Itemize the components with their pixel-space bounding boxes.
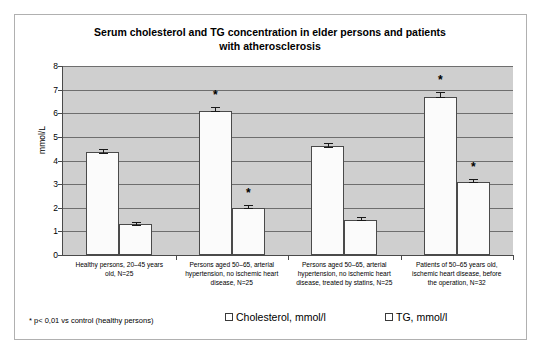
- y-axis-tick-label: 5: [42, 132, 58, 142]
- x-axis-category-label: Persons aged 50–65, arterialhypertension…: [288, 260, 401, 287]
- x-axis-label-line: ischemic heart disease, before: [401, 269, 514, 278]
- chart-legend: Cholesterol, mmol/lTG, mmol/l: [225, 311, 515, 331]
- x-axis-label-line: hypertension, no ischemic heart: [288, 269, 401, 278]
- x-axis-tick-mark: [288, 255, 289, 260]
- error-bar-cap-bottom: [132, 225, 141, 226]
- bar[interactable]: [344, 220, 377, 255]
- x-axis-label-line: Persons aged 50–65, arterial: [176, 260, 289, 269]
- error-bar-cap-bottom: [469, 182, 478, 183]
- bar[interactable]: [311, 146, 344, 255]
- x-axis-label-line: old, N=25: [63, 269, 176, 278]
- significance-marker: *: [242, 188, 254, 198]
- x-axis-tick-mark: [401, 255, 402, 260]
- footnote: * p< 0,01 vs control (healthy persons): [29, 316, 153, 325]
- y-axis-tick-label: 7: [42, 85, 58, 95]
- bar-group: [288, 66, 401, 255]
- x-axis-tick-mark: [176, 255, 177, 260]
- error-bar-cap-bottom: [244, 208, 253, 209]
- error-bar-cap-bottom: [436, 97, 445, 98]
- bar-group: **: [401, 66, 514, 255]
- x-axis-label-line: disease, treated by statins, N=25: [288, 278, 401, 287]
- significance-marker: *: [209, 90, 221, 100]
- bar-group: [63, 66, 176, 255]
- x-axis-tick-mark: [513, 255, 514, 260]
- x-axis-label-line: hypertension, no ischemic heart: [176, 269, 289, 278]
- significance-marker: *: [434, 75, 446, 85]
- bar[interactable]: [199, 111, 232, 255]
- legend-swatch-icon: [385, 313, 393, 321]
- legend-item[interactable]: Cholesterol, mmol/l: [225, 311, 326, 323]
- y-axis-tick-label: 4: [42, 156, 58, 166]
- chart-title-line-2: with atherosclerosis: [45, 39, 495, 53]
- legend-item[interactable]: TG, mmol/l: [385, 311, 447, 323]
- x-axis-label-line: Persons aged 50–65, arterial: [288, 260, 401, 269]
- significance-marker: *: [467, 162, 479, 172]
- bar[interactable]: [119, 224, 152, 255]
- legend-label: TG, mmol/l: [396, 311, 447, 323]
- legend-label: Cholesterol, mmol/l: [236, 311, 326, 323]
- chart-title: Serum cholesterol and TG concentration i…: [45, 25, 495, 53]
- error-bar-cap-bottom: [99, 153, 108, 154]
- chart-frame: Serum cholesterol and TG concentration i…: [14, 14, 527, 340]
- x-axis-category-label: Healthy persons, 20–45 yearsold, N=25: [63, 260, 176, 278]
- error-bar-cap-bottom: [324, 147, 333, 148]
- x-axis-category-labels: Healthy persons, 20–45 yearsold, N=25Per…: [63, 260, 513, 305]
- y-axis-tick-label: 8: [42, 61, 58, 71]
- x-axis-label-line: Healthy persons, 20–45 years: [63, 260, 176, 269]
- error-bar-cap-top: [357, 217, 366, 218]
- error-bar-cap-top: [324, 143, 333, 144]
- y-axis-tick-labels: 012345678: [40, 66, 58, 255]
- error-bar-cap-bottom: [211, 111, 220, 112]
- chart-title-line-1: Serum cholesterol and TG concentration i…: [45, 25, 495, 39]
- x-axis-category-label: Patients of 50–65 years old,ischemic hea…: [401, 260, 514, 287]
- error-bar-cap-top: [132, 222, 141, 223]
- x-axis-category-label: Persons aged 50–65, arterialhypertension…: [176, 260, 289, 287]
- error-bar-cap-top: [211, 107, 220, 108]
- y-axis-tick-label: 0: [42, 250, 58, 260]
- plot-area: ****: [62, 66, 513, 256]
- bar[interactable]: [457, 182, 490, 255]
- x-axis-label-line: disease, N=25: [176, 278, 289, 287]
- bar[interactable]: [232, 208, 265, 255]
- error-bar-cap-top: [436, 92, 445, 93]
- x-axis-label-line: Patients of 50–65 years old,: [401, 260, 514, 269]
- error-bar-cap-top: [469, 179, 478, 180]
- legend-swatch-icon: [225, 313, 233, 321]
- x-axis-label-line: the operation, N=32: [401, 278, 514, 287]
- error-bar-cap-bottom: [357, 220, 366, 221]
- error-bar-cap-top: [99, 149, 108, 150]
- y-axis-tick-label: 3: [42, 179, 58, 189]
- error-bar-cap-top: [244, 205, 253, 206]
- y-axis-tick-label: 1: [42, 226, 58, 236]
- y-axis-tick-label: 6: [42, 108, 58, 118]
- bar[interactable]: [424, 97, 457, 255]
- bar[interactable]: [86, 152, 119, 255]
- y-axis-tick-label: 2: [42, 203, 58, 213]
- bar-group: **: [176, 66, 289, 255]
